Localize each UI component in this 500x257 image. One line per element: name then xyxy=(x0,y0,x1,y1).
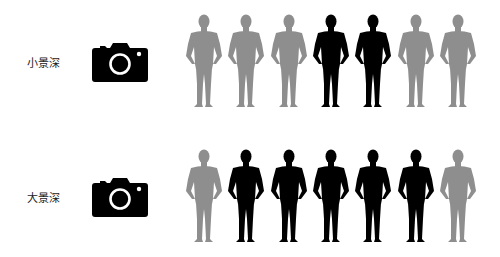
person-out-of-focus-icon xyxy=(439,14,477,109)
person-in-focus-icon xyxy=(312,149,350,244)
person-out-of-focus-icon xyxy=(439,149,477,244)
person-out-of-focus-icon xyxy=(270,14,308,109)
figure-group xyxy=(185,14,485,109)
camera-icon xyxy=(92,177,148,217)
person-out-of-focus-icon xyxy=(397,14,435,109)
deep-depth-row: 大景深 xyxy=(0,135,500,257)
person-in-focus-icon xyxy=(227,149,265,244)
person-out-of-focus-icon xyxy=(185,14,223,109)
person-out-of-focus-icon xyxy=(227,14,265,109)
camera-icon xyxy=(92,42,148,82)
row-label-deep-depth: 大景深 xyxy=(27,189,60,205)
row-label-shallow-depth: 小景深 xyxy=(27,54,60,70)
person-in-focus-icon xyxy=(270,149,308,244)
shallow-depth-row: 小景深 xyxy=(0,0,500,128)
figure-group xyxy=(185,149,485,244)
person-in-focus-icon xyxy=(397,149,435,244)
person-in-focus-icon xyxy=(354,149,392,244)
person-in-focus-icon xyxy=(354,14,392,109)
person-in-focus-icon xyxy=(312,14,350,109)
person-out-of-focus-icon xyxy=(185,149,223,244)
